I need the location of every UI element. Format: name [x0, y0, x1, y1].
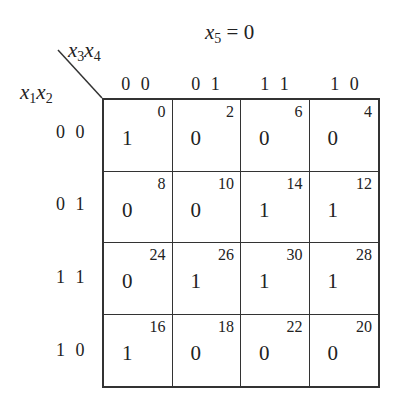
- cell-value: 1: [259, 198, 270, 223]
- map-cell: 180: [173, 315, 242, 387]
- map-cell: 240: [104, 243, 173, 315]
- row-variables-label: x1x2: [20, 80, 53, 107]
- minterm-index: 22: [287, 318, 303, 336]
- row-label-10: 1 0: [56, 340, 100, 361]
- map-cell: 220: [241, 315, 310, 387]
- cell-value: 1: [328, 269, 339, 294]
- map-cell: 60: [241, 100, 310, 172]
- map-cell: 161: [104, 315, 173, 387]
- minterm-index: 14: [287, 175, 303, 193]
- map-title: x5 = 0: [205, 20, 254, 47]
- column-label-01: 0 1: [172, 74, 242, 95]
- cell-value: 1: [122, 341, 133, 366]
- cell-value: 0: [328, 126, 339, 151]
- cell-value: 1: [328, 198, 339, 223]
- cell-value: 0: [191, 341, 202, 366]
- minterm-index: 24: [150, 246, 166, 264]
- column-label-00: 0 0: [102, 74, 172, 95]
- cell-value: 1: [191, 269, 202, 294]
- map-cell: 20: [173, 100, 242, 172]
- map-cell: 200: [310, 315, 379, 387]
- map-cell: 40: [310, 100, 379, 172]
- minterm-index: 10: [218, 175, 234, 193]
- map-cell: 301: [241, 243, 310, 315]
- minterm-index: 28: [356, 246, 372, 264]
- map-cell: 281: [310, 243, 379, 315]
- karnaugh-map-grid: 01 20 60 40 80 100 141 121 240 261 301 2…: [102, 98, 380, 388]
- map-cell: 80: [104, 172, 173, 244]
- minterm-index: 8: [158, 175, 166, 193]
- row-label-11: 1 1: [56, 267, 100, 288]
- column-label-10: 1 0: [311, 74, 381, 95]
- column-label-11: 1 1: [241, 74, 311, 95]
- map-cell: 261: [173, 243, 242, 315]
- cell-value: 0: [328, 341, 339, 366]
- minterm-index: 30: [287, 246, 303, 264]
- minterm-index: 2: [226, 103, 234, 121]
- cell-value: 0: [191, 126, 202, 151]
- map-cell: 121: [310, 172, 379, 244]
- minterm-index: 20: [356, 318, 372, 336]
- cell-value: 1: [122, 126, 133, 151]
- map-cell: 141: [241, 172, 310, 244]
- minterm-index: 0: [158, 103, 166, 121]
- column-variables-label: x3x4: [68, 38, 101, 65]
- cell-value: 0: [122, 198, 133, 223]
- cell-value: 0: [259, 126, 270, 151]
- minterm-index: 16: [150, 318, 166, 336]
- minterm-index: 4: [364, 103, 372, 121]
- minterm-index: 26: [218, 246, 234, 264]
- minterm-index: 12: [356, 175, 372, 193]
- cell-value: 0: [259, 341, 270, 366]
- map-cell: 100: [173, 172, 242, 244]
- row-label-01: 0 1: [56, 194, 100, 215]
- cell-value: 1: [259, 269, 270, 294]
- row-label-00: 0 0: [56, 122, 100, 143]
- map-cell: 01: [104, 100, 173, 172]
- cell-value: 0: [191, 198, 202, 223]
- minterm-index: 18: [218, 318, 234, 336]
- cell-value: 0: [122, 269, 133, 294]
- minterm-index: 6: [295, 103, 303, 121]
